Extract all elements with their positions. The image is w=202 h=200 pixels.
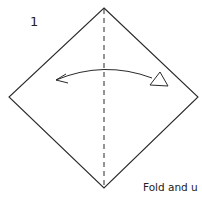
step-caption: Fold and u — [143, 181, 198, 193]
origami-step-diagram: 1 Fold and u — [0, 0, 202, 200]
arrowhead-open-icon — [56, 74, 68, 83]
diagram-svg — [0, 0, 202, 200]
arrowhead-hollow-triangle-icon — [150, 72, 168, 86]
step-number: 1 — [30, 14, 38, 29]
paper-square — [9, 8, 198, 188]
